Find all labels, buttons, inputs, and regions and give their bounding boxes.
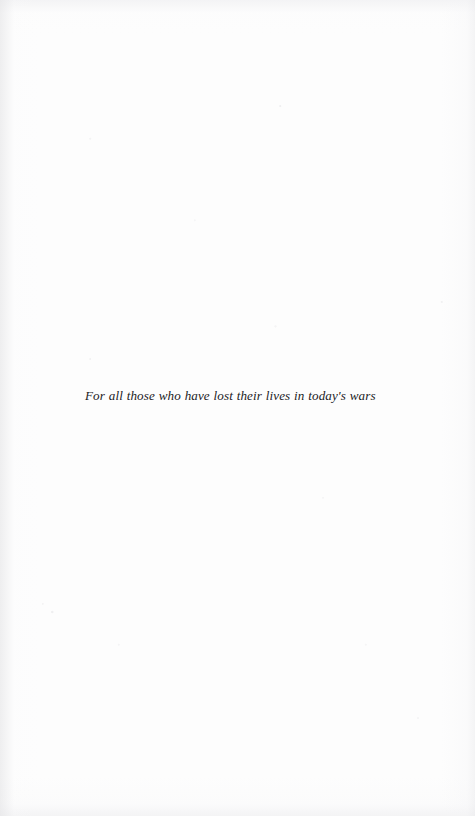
dedication-text: For all those who have lost their lives … [85, 388, 353, 403]
paper-grain-texture [0, 0, 475, 816]
book-page: For all those who have lost their lives … [0, 0, 475, 816]
